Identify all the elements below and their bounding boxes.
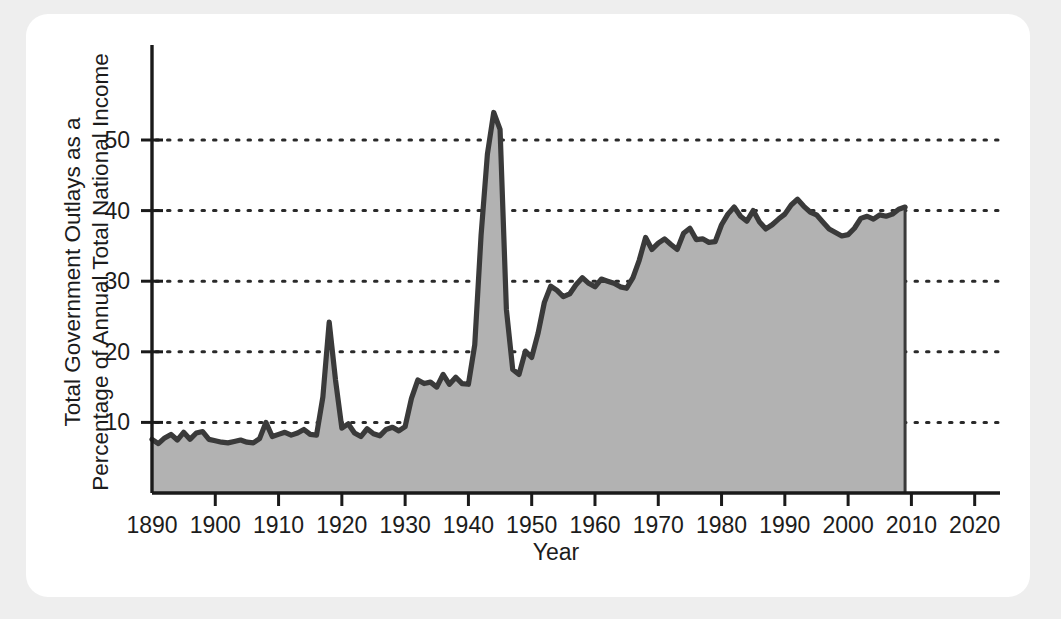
x-tick-label-1900: 1900	[190, 512, 241, 538]
area-chart: 1890190019101920193019401950196019701980…	[0, 0, 1061, 619]
x-tick-label-1960: 1960	[569, 512, 620, 538]
x-axis-tick-labels: 1890190019101920193019401950196019701980…	[126, 512, 1000, 538]
x-tick-label-1990: 1990	[759, 512, 810, 538]
x-tick-label-1940: 1940	[443, 512, 494, 538]
y-axis-title-line2: Percentage of Annual Total National Inco…	[88, 53, 113, 490]
y-axis-title-line1: Total Government Outlays as a	[60, 117, 85, 426]
series-area-fill	[152, 112, 905, 493]
x-tick-label-1920: 1920	[316, 512, 367, 538]
x-tick-label-2020: 2020	[949, 512, 1000, 538]
chart-figure: 1890190019101920193019401950196019701980…	[0, 0, 1061, 619]
x-axis-ticks	[215, 493, 974, 506]
x-tick-label-2000: 2000	[823, 512, 874, 538]
x-tick-label-1980: 1980	[696, 512, 747, 538]
x-tick-label-1950: 1950	[506, 512, 557, 538]
figure-page: 1890190019101920193019401950196019701980…	[0, 0, 1061, 619]
x-tick-label-1910: 1910	[253, 512, 304, 538]
x-axis-title: Year	[533, 539, 580, 565]
x-tick-label-1930: 1930	[380, 512, 431, 538]
x-tick-label-2010: 2010	[886, 512, 937, 538]
x-tick-label-1890: 1890	[126, 512, 177, 538]
x-tick-label-1970: 1970	[633, 512, 684, 538]
